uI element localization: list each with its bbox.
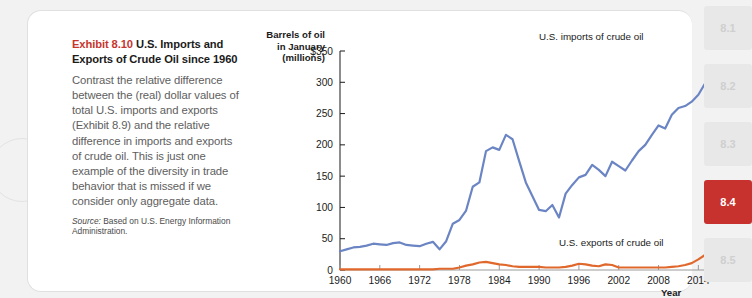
y-tick-label: 100 [316, 202, 333, 213]
y-tick-label: 250 [316, 108, 333, 119]
crude-oil-line-chart: Barrels of oil in January (millions) $35… [243, 19, 713, 297]
y-tick-label: 150 [316, 171, 333, 182]
y-tick-label: 200 [316, 139, 333, 150]
exhibit-number: Exhibit 8.10 [72, 38, 133, 50]
sidebar-tab-8-2-label: 8.2 [720, 80, 735, 92]
exhibit-caption: Exhibit 8.10 U.S. Imports and Exports of… [72, 37, 240, 237]
x-tick-label: 2002 [607, 275, 630, 286]
x-tick-label: 1984 [488, 275, 511, 286]
exhibit-source: Source: Based on U.S. Energy Information… [72, 216, 240, 237]
legend-imports-label: U.S. imports of crude oil [539, 31, 644, 42]
sidebar-tab-8-5-label: 8.5 [720, 254, 735, 266]
sidebar-tab-8-5[interactable]: 8.5 [704, 238, 752, 282]
x-tick-label: 1972 [408, 275, 431, 286]
sidebar-tab-8-3[interactable]: 8.3 [704, 122, 752, 166]
x-tick-label: 1966 [368, 275, 391, 286]
y-tick-label: 50 [322, 233, 334, 244]
sidebar-tab-8-3-label: 8.3 [720, 138, 735, 150]
x-axis-title: Year [661, 287, 681, 298]
x-tick-label: 1990 [528, 275, 551, 286]
sidebar-tab-8-1-label: 8.1 [720, 22, 735, 34]
x-tick-label: 1960 [329, 275, 352, 286]
exhibit-title: Exhibit 8.10 U.S. Imports and Exports of… [72, 37, 240, 66]
chart-plot-area: $350300250200150100500196019661972197819… [243, 19, 713, 297]
x-tick-label: 1978 [448, 275, 471, 286]
legend-exports-label: U.S. exports of crude oil [559, 237, 664, 248]
y-tick-label: $350 [310, 46, 333, 57]
series-line [340, 255, 705, 269]
y-tick-label: 300 [316, 77, 333, 88]
exhibit-card: Exhibit 8.10 U.S. Imports and Exports of… [27, 10, 692, 292]
source-prefix: Source: [72, 216, 101, 226]
sidebar-tab-8-1[interactable]: 8.1 [704, 6, 752, 50]
series-line [340, 84, 705, 252]
chapter-tab-rail: 8.1 8.2 8.3 8.4 8.5 [704, 0, 752, 292]
sidebar-tab-8-4-label: 8.4 [720, 196, 735, 208]
exhibit-body-text: Contrast the relative difference between… [72, 73, 240, 209]
x-tick-label: 1996 [568, 275, 591, 286]
sidebar-tab-8-4[interactable]: 8.4 [704, 180, 752, 224]
x-tick-label: 2008 [647, 275, 670, 286]
y-tick-label: 0 [327, 265, 333, 276]
sidebar-tab-8-2[interactable]: 8.2 [704, 64, 752, 108]
